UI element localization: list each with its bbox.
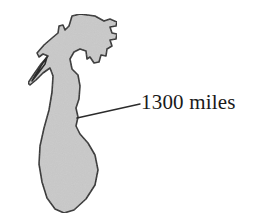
distance-label: 1300 miles: [141, 90, 236, 114]
